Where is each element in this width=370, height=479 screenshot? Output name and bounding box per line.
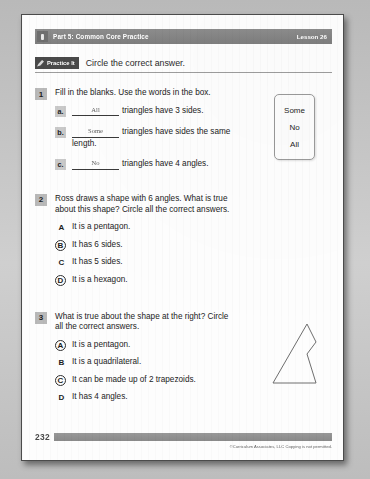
footer-redaction-bar <box>54 433 332 441</box>
choice-letter: D <box>55 392 68 403</box>
page-footer: 232 ©Curriculum Associates, LLC Copying … <box>35 432 332 449</box>
practice-it-label: Practice It <box>47 60 75 66</box>
choice-d[interactable]: D It is a hexagon. <box>55 275 332 286</box>
choice-letter: B <box>55 357 68 368</box>
part-letter: b. <box>55 127 66 138</box>
choice-text: It is a pentagon. <box>72 340 130 351</box>
part-header-bar: Part 5: Common Core Practice Lesson 26 <box>35 29 332 44</box>
question-2: 2 Ross draws a shape with 6 angles. What… <box>35 194 332 286</box>
worksheet-page: Part 5: Common Core Practice Lesson 26 P… <box>21 14 344 461</box>
part-letter: a. <box>55 106 66 117</box>
choice-letter: C <box>55 257 68 268</box>
choice-letter-circled: C <box>55 375 66 386</box>
question-stem: Fill in the blanks. Use the words in the… <box>55 88 233 99</box>
question-number: 3 <box>35 312 47 324</box>
word-box-option-no[interactable]: No <box>289 123 299 132</box>
question-1: 1 Fill in the blanks. Use the words in t… <box>35 88 332 171</box>
answer-choices: A It is a pentagon. B It has 6 sides. C … <box>55 222 332 286</box>
part-letter: c. <box>55 159 66 170</box>
part-text: Sometriangles have sides the same length… <box>72 127 232 149</box>
word-box-option-all[interactable]: All <box>290 140 299 149</box>
question-3: 3 What is true about the shape at the ri… <box>35 312 332 404</box>
question-number: 1 <box>35 88 47 100</box>
lesson-label: Lesson 26 <box>297 33 327 40</box>
part-sentence: triangles have 3 sides. <box>122 106 203 115</box>
choice-c[interactable]: C It has 5 sides. <box>55 257 332 268</box>
copyright-notice: ©Curriculum Associates, LLC Copying is n… <box>35 444 332 449</box>
choice-a[interactable]: A It is a pentagon. <box>55 222 332 233</box>
practice-it-badge: Practice It <box>35 57 79 69</box>
choice-letter: A <box>55 222 68 233</box>
practice-instruction: Circle the correct answer. <box>86 58 185 68</box>
blank-part-c: c. Notriangles have 4 angles. <box>55 159 332 171</box>
question-stem: Ross draws a shape with 6 angles. What i… <box>55 194 233 215</box>
part-title: Part 5: Common Core Practice <box>53 33 149 40</box>
choice-text: It has 4 angles. <box>72 392 128 403</box>
blank-answer-c[interactable]: No <box>72 158 119 170</box>
choice-letter-circled: A <box>55 340 66 351</box>
pencil-badge-icon <box>37 31 48 42</box>
part-sentence: triangles have 4 angles. <box>122 159 208 168</box>
choice-text: It is a pentagon. <box>72 222 130 233</box>
blank-answer-a[interactable]: All <box>72 105 119 117</box>
word-box: Some No All <box>274 94 315 160</box>
word-box-option-some[interactable]: Some <box>284 106 305 115</box>
question-stem: What is true about the shape at the righ… <box>55 312 233 333</box>
choice-text: It is a quadrilateral. <box>72 357 141 368</box>
choice-text: It is a hexagon. <box>72 275 128 286</box>
choice-letter-circled: D <box>55 275 66 286</box>
practice-it-row: Practice It Circle the correct answer. <box>35 57 332 73</box>
page-number: 232 <box>35 432 50 442</box>
choice-b[interactable]: B It has 6 sides. <box>55 240 332 251</box>
choice-letter-circled: B <box>55 240 66 251</box>
part-text: Notriangles have 4 angles. <box>72 159 208 171</box>
question-number: 2 <box>35 194 47 206</box>
pencil-icon <box>37 60 44 67</box>
choice-text: It has 6 sides. <box>72 240 123 251</box>
figure-container <box>263 320 333 400</box>
choice-text: It has 5 sides. <box>72 257 123 268</box>
part-text: Alltriangles have 3 sides. <box>72 106 203 118</box>
concave-pentagon-shape <box>263 320 333 396</box>
choice-text: It can be made up of 2 trapezoids. <box>72 375 196 386</box>
blank-answer-b[interactable]: Some <box>72 126 119 138</box>
